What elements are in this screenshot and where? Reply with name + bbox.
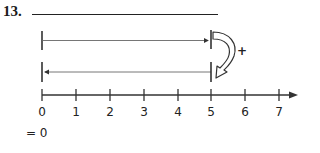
tick-label-0: 0 [36, 105, 48, 119]
tick-label-2: 2 [104, 105, 116, 119]
result-text: = 0 [26, 126, 48, 140]
number-line-axis [42, 89, 298, 101]
tick-label-4: 4 [172, 105, 184, 119]
tick-label-1: 1 [70, 105, 82, 119]
upper-segment [42, 30, 211, 50]
tick-label-6: 6 [239, 105, 251, 119]
tick-label-3: 3 [138, 105, 150, 119]
lower-segment [42, 62, 211, 82]
tick-label-7: 7 [273, 105, 285, 119]
plus-sign: + [237, 44, 247, 58]
tick-label-5: 5 [205, 105, 217, 119]
reverse-curved-arrow-icon [213, 32, 235, 78]
